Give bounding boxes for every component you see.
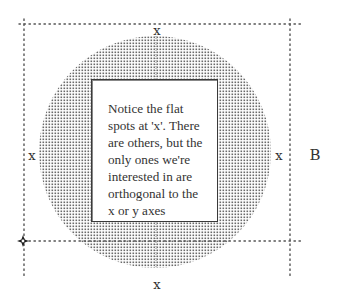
diagram-canvas: Notice the flat spots at 'x'. There are … bbox=[0, 0, 338, 306]
flat-spot-label-bottom: x bbox=[153, 278, 160, 291]
flat-spot-label-right: x bbox=[275, 149, 282, 162]
flat-spot-label-left: x bbox=[28, 149, 35, 162]
boundary-label: B bbox=[309, 148, 320, 163]
origin-marker-icon bbox=[17, 235, 29, 247]
note-line: x or y axes bbox=[108, 202, 211, 219]
note-line: only ones we're bbox=[108, 151, 211, 168]
note-line: interested in are bbox=[108, 168, 211, 185]
note-box: Notice the flat spots at 'x'. There are … bbox=[91, 79, 218, 222]
note-line: spots at 'x'. There bbox=[108, 117, 211, 134]
note-line: Notice the flat bbox=[108, 100, 211, 117]
flat-spot-label-top: x bbox=[153, 24, 160, 37]
note-line: orthogonal to the bbox=[108, 185, 211, 202]
note-line: are others, but the bbox=[108, 134, 211, 151]
